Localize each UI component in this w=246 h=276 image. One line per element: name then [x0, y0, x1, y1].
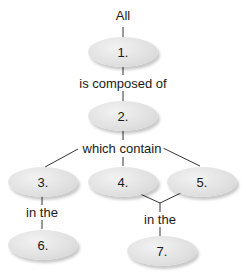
root-label: All [114, 8, 132, 23]
link-label-which-contain: which contain [81, 141, 164, 156]
node-1: 1. [88, 37, 158, 67]
node-6: 6. [8, 230, 78, 260]
node-4: 4. [88, 167, 158, 197]
link-label-in-the-right: in the [142, 212, 178, 227]
node-2: 2. [88, 101, 158, 131]
link-label-in-the-left: in the [24, 205, 60, 220]
node-7: 7. [127, 236, 197, 266]
node-3: 3. [8, 167, 78, 197]
link-label-is-composed-of: is composed of [77, 76, 168, 91]
node-5: 5. [167, 167, 237, 197]
concept-map: All 1. is composed of 2. which contain 3… [0, 0, 246, 276]
